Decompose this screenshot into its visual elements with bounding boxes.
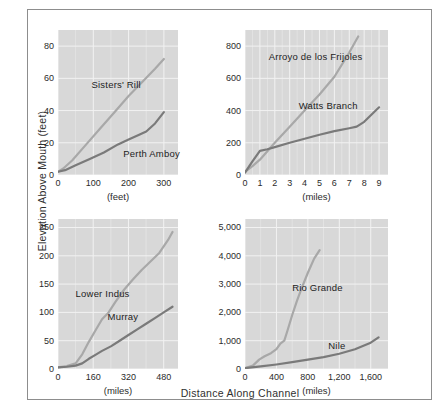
panel-bottom-right-ytick-4: 4,000 xyxy=(207,252,241,261)
panel-bottom-right-series-label-1: Nile xyxy=(328,340,345,351)
figure-root: Elevation Above Mouth (feet) Distance Al… xyxy=(0,0,440,414)
panel-bottom-right: Rio GrandeNile01,0002,0003,0004,0005,000… xyxy=(0,0,440,414)
panel-bottom-right-series-1 xyxy=(245,337,379,368)
panel-bottom-right-xtick-4: 1,600 xyxy=(353,373,389,382)
panel-bottom-right-ytick-5: 5,000 xyxy=(207,223,241,232)
panel-bottom-right-gridlines xyxy=(245,219,388,369)
panel-bottom-right-series-label-0: Rio Grande xyxy=(292,282,343,293)
panel-bottom-right-canvas xyxy=(245,219,388,369)
panel-bottom-right-ytick-1: 1,000 xyxy=(207,337,241,346)
panel-bottom-right-plot-area xyxy=(245,219,388,369)
panel-bottom-right-x-unit: (miles) xyxy=(245,385,388,396)
panel-bottom-right-ytick-3: 3,000 xyxy=(207,280,241,289)
panel-bottom-right-series-0 xyxy=(245,250,320,368)
panel-bottom-right-ytick-2: 2,000 xyxy=(207,308,241,317)
